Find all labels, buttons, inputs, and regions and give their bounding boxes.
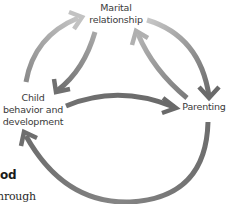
node-parenting-line1: Parenting [176,101,231,113]
arrow-child-to-parenting [66,95,176,113]
node-child-line2: behavior and [0,104,66,116]
cropped-body-text-fragment: hrough [0,190,36,203]
arrow-parenting-to-child [21,122,208,202]
node-child-behavior: Child behavior and development [0,92,66,128]
cropped-heading-fragment: od [0,168,16,182]
node-marital-relationship: Marital relationship [86,2,146,26]
node-parenting: Parenting [176,101,231,113]
node-marital-line2: relationship [86,14,146,26]
arrow-marital-to-child [54,32,95,92]
node-child-line3: development [0,116,66,128]
arrow-marital-to-parenting [147,20,219,98]
node-child-line1: Child [0,92,66,104]
family-systems-diagram: Marital relationship Child behavior and … [0,0,231,204]
arrow-parenting-to-marital [132,31,187,98]
node-marital-line1: Marital [86,2,146,14]
